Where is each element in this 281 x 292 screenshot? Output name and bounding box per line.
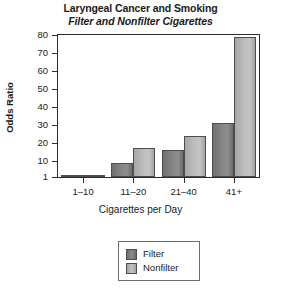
bar-group (212, 35, 256, 177)
chart-legend: Filter Nonfilter (118, 241, 200, 281)
y-axis-tick: 40 (0, 107, 57, 108)
chart-subtitle: Filter and Nonfilter Cigarettes (0, 15, 281, 28)
y-axis-tick-label: 80 (37, 28, 48, 41)
y-axis-tick: 10 (0, 161, 57, 162)
y-axis-tick-mark (52, 53, 57, 54)
legend-label-filter: Filter (143, 248, 164, 260)
chart-title: Laryngeal Cancer and Smoking (0, 2, 281, 15)
y-axis-tick-mark (52, 125, 57, 126)
x-axis-tick-mark (83, 178, 84, 183)
y-axis-tick: 70 (0, 53, 57, 54)
bar-group (61, 35, 105, 177)
y-axis-tick-mark (52, 71, 57, 72)
legend-item[interactable]: Nonfilter (126, 261, 193, 275)
legend-item[interactable]: Filter (126, 247, 193, 261)
legend-swatch-nonfilter-icon (126, 263, 137, 274)
y-axis-tick: 60 (0, 71, 57, 72)
y-axis-tick-label: 30 (37, 118, 48, 131)
y-axis-tick-mark (52, 143, 57, 144)
y-axis-tick-label: 1 (43, 170, 48, 183)
y-axis-tick-label: 40 (37, 100, 48, 113)
chart-container: Laryngeal Cancer and Smoking Filter and … (0, 0, 281, 292)
x-axis-tick-mark (234, 178, 235, 183)
bar-filter (111, 163, 133, 177)
bar-filter (212, 123, 234, 177)
y-axis-tick: 80 (0, 35, 57, 36)
bars-layer (58, 35, 259, 177)
bar-nonfilter (133, 148, 155, 177)
x-axis-tick-mark (133, 178, 134, 183)
y-axis-tick-label: 20 (37, 136, 48, 149)
bar-filter (162, 150, 184, 177)
x-axis-tick-mark (184, 178, 185, 183)
y-axis-tick-mark (52, 89, 57, 90)
bar-group (111, 35, 155, 177)
bar-filter (61, 175, 83, 177)
chart-title-block: Laryngeal Cancer and Smoking Filter and … (0, 2, 281, 28)
y-axis-tick: 50 (0, 89, 57, 90)
x-axis-title: Cigarettes per Day (0, 203, 281, 216)
bar-nonfilter (83, 175, 105, 177)
x-axis-tick-label: 41+ (204, 185, 264, 198)
legend-swatch-filter-icon (126, 249, 137, 260)
y-axis-tick: 20 (0, 143, 57, 144)
bar-group (162, 35, 206, 177)
bar-nonfilter (234, 37, 256, 177)
y-axis-tick: 30 (0, 125, 57, 126)
y-axis-tick-mark (52, 161, 57, 162)
y-axis-tick-label: 50 (37, 82, 48, 95)
y-axis-tick: 1 (0, 177, 57, 178)
y-axis-tick-mark (52, 35, 57, 36)
legend-label-nonfilter: Nonfilter (143, 262, 178, 274)
bar-nonfilter (184, 136, 206, 177)
y-axis-tick-mark (52, 177, 57, 178)
y-axis-tick-label: 60 (37, 64, 48, 77)
y-axis-tick-label: 10 (37, 154, 48, 167)
y-axis-tick-mark (52, 107, 57, 108)
y-axis-tick-label: 70 (37, 46, 48, 59)
